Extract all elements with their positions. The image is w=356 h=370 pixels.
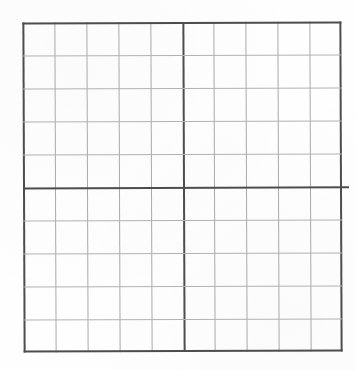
grid-area — [22, 21, 342, 352]
grid-sheet — [0, 0, 356, 370]
grid-major-horizontal-line — [23, 186, 349, 189]
grid-major-horizontal-line — [24, 349, 343, 352]
worksheet-canvas — [0, 0, 356, 370]
